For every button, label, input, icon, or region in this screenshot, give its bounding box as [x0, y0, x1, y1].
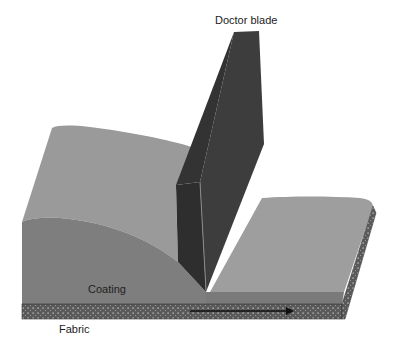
fabric-strip: [22, 304, 342, 319]
label-coating: Coating: [88, 283, 126, 295]
label-doctor-blade: Doctor blade: [215, 14, 277, 26]
label-fabric: Fabric: [59, 323, 90, 335]
coating-right-front-face: [206, 292, 344, 304]
doctor-blade-diagram: [0, 0, 396, 348]
